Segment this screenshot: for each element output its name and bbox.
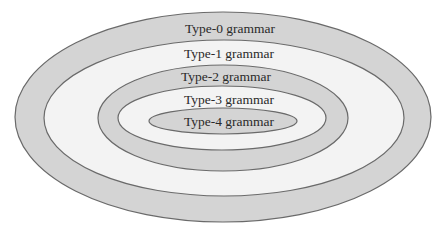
label-type-2: Type-2 grammar: [181, 69, 272, 84]
label-type-0: Type-0 grammar: [185, 21, 276, 36]
label-type-1: Type-1 grammar: [184, 46, 275, 61]
label-type-4: Type-4 grammar: [184, 114, 275, 129]
label-type-3: Type-3 grammar: [184, 92, 275, 107]
grammar-hierarchy-diagram: Type-0 grammar Type-1 grammar Type-2 gra…: [0, 0, 448, 232]
